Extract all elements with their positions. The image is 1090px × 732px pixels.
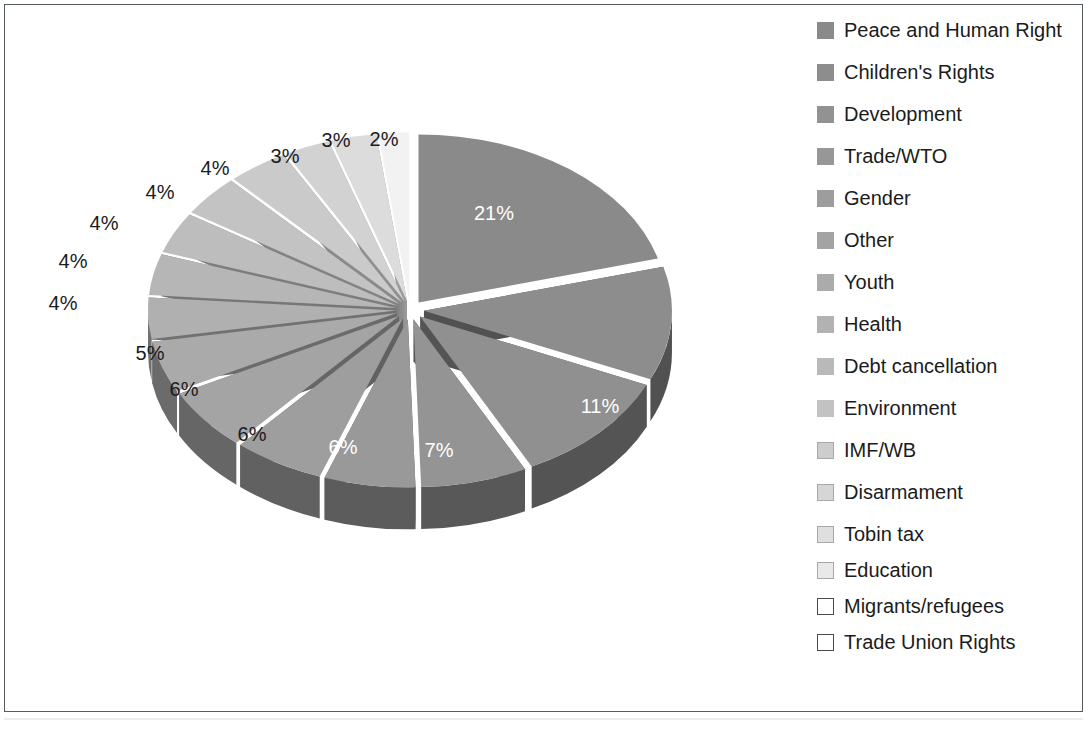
legend-item-label: Gender bbox=[844, 188, 911, 208]
legend-item[interactable]: Tobin tax bbox=[817, 523, 1079, 545]
legend-color-swatch-icon bbox=[817, 634, 834, 651]
legend-color-swatch-icon bbox=[817, 106, 834, 123]
legend-item[interactable]: Trade/WTO bbox=[817, 145, 1079, 167]
legend-item-label: Environment bbox=[844, 398, 956, 418]
pie-slice-percent-label: 4% bbox=[201, 158, 230, 178]
pie-slice-percent-label: 7% bbox=[425, 440, 454, 460]
legend-color-swatch-icon bbox=[817, 148, 834, 165]
pie-slice-percent-label: 4% bbox=[59, 251, 88, 271]
legend-color-swatch-icon bbox=[817, 562, 834, 579]
legend-item[interactable]: Education bbox=[817, 559, 1079, 581]
pie-slice-percent-label: 4% bbox=[49, 293, 78, 313]
legend-item[interactable]: Peace and Human Right bbox=[817, 19, 1079, 41]
legend-color-swatch-icon bbox=[817, 316, 834, 333]
legend-item[interactable]: Other bbox=[817, 229, 1079, 251]
legend-item-label: Debt cancellation bbox=[844, 356, 997, 376]
pie-slice-percent-label: 2% bbox=[370, 129, 399, 149]
legend-color-swatch-icon bbox=[817, 274, 834, 291]
pie-slice-percent-label: 21% bbox=[474, 203, 514, 223]
legend-item-label: Health bbox=[844, 314, 902, 334]
pie-slice-percent-label: 4% bbox=[146, 182, 175, 202]
pie-slice-percent-label: 3% bbox=[271, 146, 300, 166]
pie-slice-percent-label: 11% bbox=[693, 312, 732, 332]
chart-frame: 21%11%11%7%6%6%6%5%4%4%4%4%4%3%3%2% Peac… bbox=[4, 4, 1083, 712]
legend-item[interactable]: IMF/WB bbox=[817, 439, 1079, 461]
legend-item-label: IMF/WB bbox=[844, 440, 916, 460]
pie-slice-percent-label: 3% bbox=[322, 130, 351, 150]
legend-item[interactable]: Migrants/refugees bbox=[817, 595, 1079, 617]
legend-color-swatch-icon bbox=[817, 400, 834, 417]
legend-color-swatch-icon bbox=[817, 442, 834, 459]
legend-item-label: Children's Rights bbox=[844, 62, 995, 82]
legend-item-label: Other bbox=[844, 230, 894, 250]
legend-item-label: Development bbox=[844, 104, 962, 124]
legend-color-swatch-icon bbox=[817, 232, 834, 249]
legend-color-swatch-icon bbox=[817, 22, 834, 39]
legend-color-swatch-icon bbox=[817, 484, 834, 501]
chart-legend: Peace and Human RightChildren's RightsDe… bbox=[817, 19, 1079, 667]
legend-item[interactable]: Gender bbox=[817, 187, 1079, 209]
legend-color-swatch-icon bbox=[817, 598, 834, 615]
pie-slice-percent-label: 5% bbox=[136, 343, 165, 363]
legend-color-swatch-icon bbox=[817, 190, 834, 207]
legend-color-swatch-icon bbox=[817, 358, 834, 375]
legend-item-label: Youth bbox=[844, 272, 894, 292]
legend-item-label: Disarmament bbox=[844, 482, 963, 502]
pie-slice-tops bbox=[148, 133, 672, 488]
pie-slice-percent-label: 6% bbox=[238, 424, 267, 444]
legend-item-label: Migrants/refugees bbox=[844, 596, 1004, 616]
legend-item[interactable]: Development bbox=[817, 103, 1079, 125]
scan-artifact-line bbox=[4, 718, 1083, 720]
pie-chart-svg bbox=[10, 10, 810, 716]
chart-page: 21%11%11%7%6%6%6%5%4%4%4%4%4%3%3%2% Peac… bbox=[0, 0, 1090, 732]
legend-item[interactable]: Youth bbox=[817, 271, 1079, 293]
legend-item[interactable]: Children's Rights bbox=[817, 61, 1079, 83]
legend-item[interactable]: Debt cancellation bbox=[817, 355, 1079, 377]
legend-item-label: Education bbox=[844, 560, 933, 580]
legend-item[interactable]: Disarmament bbox=[817, 481, 1079, 503]
pie-slice-percent-label: 6% bbox=[329, 437, 358, 457]
pie-slice-percent-label: 6% bbox=[170, 379, 199, 399]
pie-slice-percent-label: 11% bbox=[581, 396, 620, 416]
pie-chart-plot-area: 21%11%11%7%6%6%6%5%4%4%4%4%4%3%3%2% bbox=[10, 10, 810, 716]
legend-item-label: Trade/WTO bbox=[844, 146, 947, 166]
legend-item-label: Tobin tax bbox=[844, 524, 924, 544]
legend-color-swatch-icon bbox=[817, 526, 834, 543]
pie-slice-percent-label: 4% bbox=[90, 213, 119, 233]
legend-item[interactable]: Health bbox=[817, 313, 1079, 335]
legend-color-swatch-icon bbox=[817, 64, 834, 81]
legend-item-label: Peace and Human Right bbox=[844, 20, 1062, 40]
legend-item[interactable]: Environment bbox=[817, 397, 1079, 419]
legend-item-label: Trade Union Rights bbox=[844, 632, 1016, 652]
legend-item[interactable]: Trade Union Rights bbox=[817, 631, 1079, 653]
